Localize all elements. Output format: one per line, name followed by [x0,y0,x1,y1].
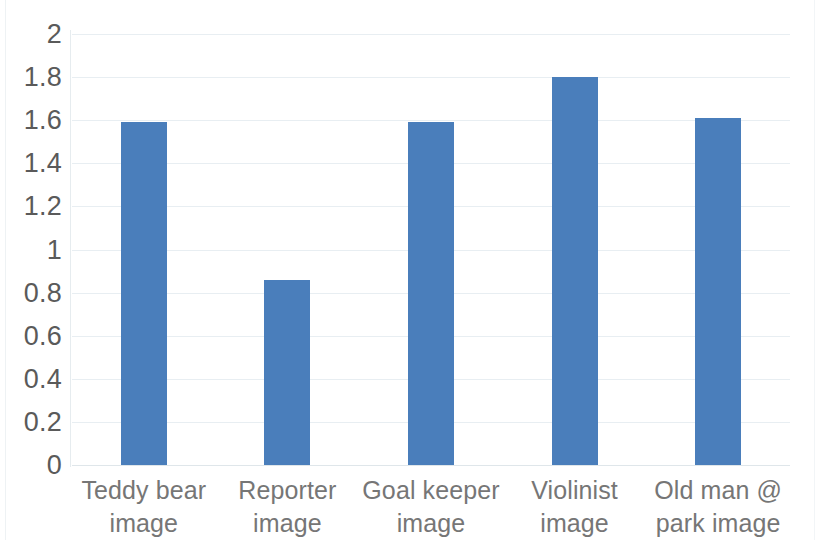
y-axis-tick-label: 0.4 [4,365,62,392]
x-axis-category-label: Violinist image [503,474,647,558]
y-axis-tick-label: 0.2 [4,408,62,435]
bar [264,280,310,465]
x-axis-category-labels: Teddy bear imageReporter imageGoal keepe… [72,474,790,558]
y-axis-tick-label: 2 [4,21,62,48]
y-axis-tick-label: 1 [4,236,62,263]
gridline [72,465,790,466]
bar [121,122,167,465]
x-axis-category-label: Old man @ park image [646,474,790,558]
y-axis-tick-label: 1.2 [4,193,62,220]
y-axis-tick-label: 0.8 [4,279,62,306]
y-axis-tick-label: 1.8 [4,64,62,91]
x-axis-category-label: Goal keeper image [359,474,503,558]
y-axis-line [70,30,71,467]
chart-frame-right-edge [814,0,815,540]
bar [408,122,454,465]
gridline [72,120,790,121]
y-axis-tick-label: 1.4 [4,150,62,177]
x-axis-category-label: Reporter image [216,474,360,558]
y-axis-tick-label: 0 [4,452,62,479]
x-axis-category-label: Teddy bear image [72,474,216,558]
plot-area [72,34,790,465]
gridline [72,77,790,78]
bar-chart: 00.20.40.60.811.21.41.61.82 Teddy bear i… [0,0,820,558]
bar [695,118,741,465]
y-axis-tick-labels: 00.20.40.60.811.21.41.61.82 [0,34,62,465]
bar [552,77,598,465]
y-axis-tick-label: 1.6 [4,107,62,134]
gridline [72,34,790,35]
y-axis-tick-label: 0.6 [4,322,62,349]
